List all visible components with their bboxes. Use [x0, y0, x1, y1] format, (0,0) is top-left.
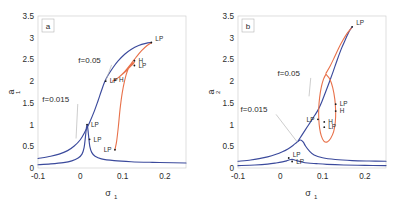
critical-point-marker [89, 138, 91, 140]
y-tick-label: 0.5 [23, 142, 35, 151]
x-tick-label: 0.2 [359, 172, 371, 181]
critical-point-label: LP [296, 158, 304, 165]
annotations-a: f=0.05f=0.015 [42, 56, 111, 139]
figure-container: 3.5 3 2.5 2 1.5 1 0.5 0 -0.1 0 0.1 0.2 σ… [0, 0, 400, 208]
y-tick-label: 2.5 [223, 55, 235, 64]
series-annotation-label: f=0.05 [278, 69, 301, 78]
y-tick-label: 2.5 [23, 55, 35, 64]
plot-frame-a [38, 16, 186, 168]
curve-f005-upper-b [298, 27, 352, 141]
curve-f0015-a [38, 125, 186, 165]
critical-point-marker [291, 161, 293, 163]
critical-point-label: H [119, 76, 124, 83]
annotation-leader-line [276, 114, 297, 142]
x-tick-label: 0 [278, 172, 283, 181]
series-annotation-label: f=0.05 [78, 56, 101, 65]
critical-point-label: LP [104, 146, 112, 153]
x-axis-title-sub: 1 [314, 194, 318, 200]
x-axis-title-text: σ [105, 188, 111, 198]
panel-letter-text: b [246, 22, 251, 31]
y-tick-label: 1.5 [23, 99, 35, 108]
critical-point-label: LP [91, 121, 99, 128]
y-tick-label: 3 [229, 34, 234, 43]
y-tick-label: 3.5 [23, 12, 35, 21]
critical-point-label: LP [307, 116, 315, 123]
curve-f0015-b [238, 159, 386, 165]
y-tick-label: 2 [29, 77, 34, 86]
critical-point-marker [288, 157, 290, 159]
y-axis-title-b: a 2 [206, 89, 221, 94]
critical-point-marker [86, 124, 88, 126]
y-tick-label: 1.5 [223, 99, 235, 108]
critical-point-label: LP [356, 19, 364, 26]
panel-letter-a: a [42, 19, 54, 32]
critical-point-marker [134, 60, 136, 62]
x-axis-ticks-b: -0.1 0 0.1 0.2 [231, 172, 371, 181]
y-tick-label: 1 [229, 121, 234, 130]
panel-letter-b: b [242, 19, 254, 32]
x-tick-label: 0 [78, 172, 83, 181]
curve-isola-b [319, 74, 336, 142]
curve-f005-b [238, 140, 386, 161]
y-tick-label: 1 [29, 121, 34, 130]
annotations-b: f=0.05f=0.015 [241, 69, 311, 142]
panel-b-svg: 3.5 3 2.5 2 1.5 1 0.5 0 -0.1 0 0.1 0.2 σ… [200, 0, 400, 208]
critical-point-label: LP [138, 62, 146, 69]
panel-letter-text: a [46, 22, 51, 31]
y-tick-label: 3.5 [223, 12, 235, 21]
x-axis-title-sub: 1 [114, 194, 118, 200]
critical-point-marker [105, 80, 107, 82]
x-tick-label: 0.1 [117, 172, 129, 181]
panel-b: 3.5 3 2.5 2 1.5 1 0.5 0 -0.1 0 0.1 0.2 σ… [200, 0, 400, 208]
x-tick-label: 0.2 [159, 172, 171, 181]
annotation-leader-line [309, 78, 311, 96]
plot-frame-b [238, 16, 386, 168]
critical-point-marker [150, 42, 152, 44]
critical-point-marker [323, 121, 325, 123]
critical-point-marker [134, 65, 136, 67]
x-tick-label: -0.1 [31, 172, 46, 181]
x-axis-title-a: σ 1 [105, 188, 118, 200]
x-tick-label: -0.1 [231, 172, 246, 181]
critical-point-marker [335, 103, 337, 105]
y-axis-ticks-b: 3.5 3 2.5 2 1.5 1 0.5 0 [223, 12, 235, 173]
x-axis-ticks-a: -0.1 0 0.1 0.2 [31, 172, 171, 181]
critical-point-marker [114, 149, 116, 151]
critical-point-label: H [340, 107, 345, 114]
critical-point-marker [323, 126, 325, 128]
critical-point-label: LP [328, 123, 336, 130]
critical-point-marker [335, 110, 337, 112]
critical-points-a: LPHLPHLPLPLPLP [86, 35, 163, 153]
curves-b [238, 27, 386, 166]
series-annotation-label: f=0.015 [241, 105, 268, 114]
panel-a-svg: 3.5 3 2.5 2 1.5 1 0.5 0 -0.1 0 0.1 0.2 σ… [0, 0, 200, 208]
critical-point-marker [317, 118, 319, 120]
x-axis-title-text: σ [305, 188, 311, 198]
critical-point-label: LP [110, 77, 118, 84]
y-axis-ticks-a: 3.5 3 2.5 2 1.5 1 0.5 0 [23, 12, 35, 173]
annotation-leader-line [76, 104, 78, 138]
critical-point-label: LP [293, 151, 301, 158]
y-axis-title-a: a 1 [6, 89, 21, 94]
critical-point-label: LP [340, 100, 348, 107]
series-annotation-label: f=0.015 [42, 95, 69, 104]
panel-a: 3.5 3 2.5 2 1.5 1 0.5 0 -0.1 0 0.1 0.2 σ… [0, 0, 200, 208]
y-tick-label: 2 [229, 77, 234, 86]
critical-point-marker [351, 26, 353, 28]
y-tick-label: 3 [29, 34, 34, 43]
x-tick-label: 0.1 [317, 172, 329, 181]
critical-point-label: LP [155, 35, 163, 42]
critical-point-label: LP [94, 136, 102, 143]
curve-isola-a [112, 43, 151, 150]
x-axis-title-b: σ 1 [305, 188, 318, 200]
y-tick-label: 0.5 [223, 142, 235, 151]
